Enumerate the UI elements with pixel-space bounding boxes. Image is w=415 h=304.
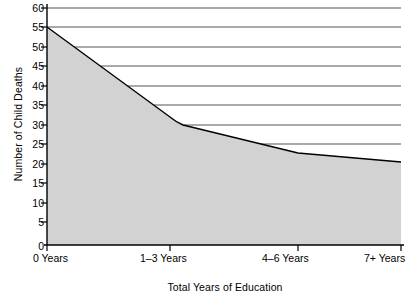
y-axis [41,4,47,245]
x-tick-label: 1–3 Years [140,253,187,264]
area-chart: Number of Child Deaths 60 55 50 45 40 35… [0,0,415,304]
x-tick-label: 7+ Years [364,253,405,264]
x-axis [44,245,404,251]
x-tick-label: 4–6 Years [262,253,309,264]
data-area-series [47,27,401,245]
x-axis-title: Total Years of Education [40,281,410,293]
x-tick-label: 0 Years [33,253,68,264]
